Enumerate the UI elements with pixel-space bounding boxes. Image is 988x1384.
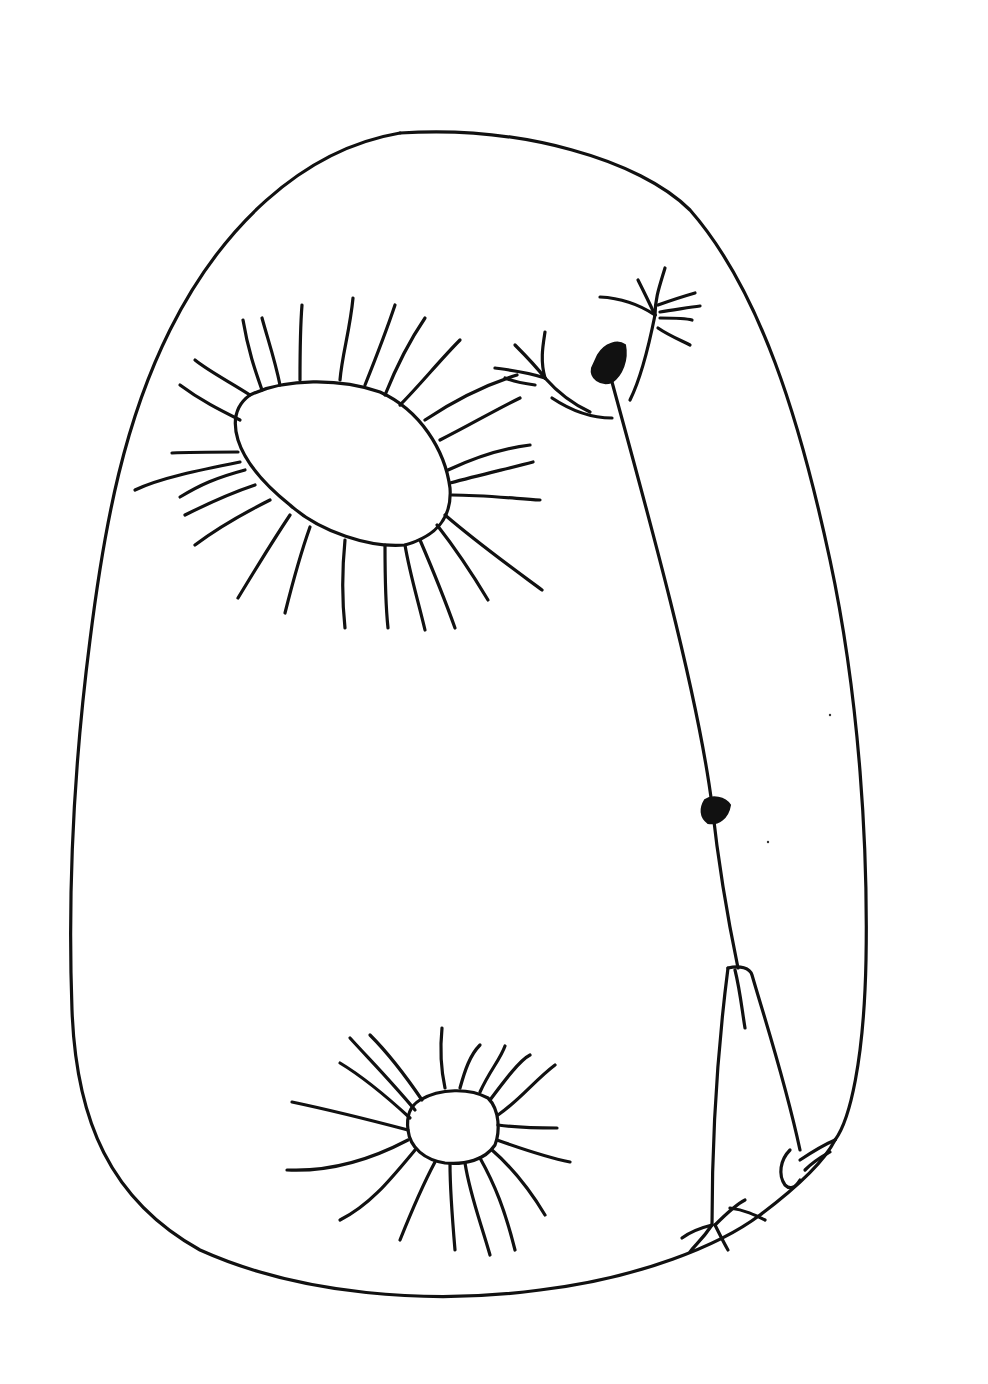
lower-radiating-opening: [287, 1028, 570, 1255]
branching-tufts: [495, 268, 700, 418]
speck: [767, 841, 769, 843]
stalk-with-dark-node: [592, 343, 738, 968]
speck: [829, 714, 831, 716]
base-claws: [682, 1140, 835, 1252]
outer-body-outline: [71, 132, 867, 1297]
line-drawing: [0, 0, 988, 1384]
